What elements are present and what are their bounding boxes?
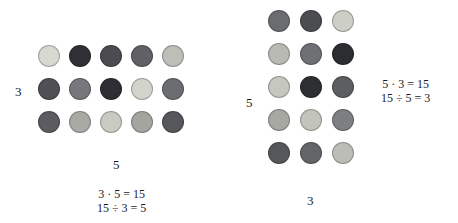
dot bbox=[131, 78, 153, 100]
dot bbox=[300, 76, 322, 98]
dot bbox=[100, 111, 122, 133]
dot bbox=[38, 78, 60, 100]
left-array-row-label: 3 bbox=[15, 85, 22, 98]
right-dot-array bbox=[268, 10, 354, 164]
division-equation: 15 ÷ 3 = 5 bbox=[97, 201, 146, 215]
dot bbox=[300, 43, 322, 65]
dot bbox=[162, 45, 184, 67]
dot bbox=[300, 142, 322, 164]
dot bbox=[38, 45, 60, 67]
multiplication-equation: 5 · 3 = 15 bbox=[381, 77, 430, 91]
right-array-row-label: 5 bbox=[246, 96, 253, 109]
dot bbox=[300, 10, 322, 32]
dot bbox=[131, 111, 153, 133]
dot bbox=[69, 78, 91, 100]
dot bbox=[162, 78, 184, 100]
dot bbox=[332, 43, 354, 65]
left-array-column-label: 5 bbox=[113, 158, 120, 171]
dot bbox=[268, 142, 290, 164]
division-equation: 15 ÷ 5 = 3 bbox=[381, 91, 430, 105]
dot bbox=[69, 45, 91, 67]
dot bbox=[268, 10, 290, 32]
dot bbox=[332, 109, 354, 131]
dot bbox=[38, 111, 60, 133]
dot bbox=[332, 10, 354, 32]
diagram-canvas: 3 5 3 · 5 = 15 15 ÷ 3 = 5 5 3 bbox=[0, 0, 458, 223]
dot bbox=[268, 109, 290, 131]
left-dot-array bbox=[38, 45, 184, 133]
dot bbox=[69, 111, 91, 133]
dot bbox=[268, 76, 290, 98]
dot bbox=[100, 45, 122, 67]
dot bbox=[100, 78, 122, 100]
dot bbox=[131, 45, 153, 67]
right-array-equations: 5 · 3 = 15 15 ÷ 5 = 3 bbox=[381, 77, 430, 105]
dot bbox=[332, 76, 354, 98]
dot bbox=[300, 109, 322, 131]
dot bbox=[332, 142, 354, 164]
right-array-column-label: 3 bbox=[307, 194, 314, 207]
dot bbox=[268, 43, 290, 65]
dot bbox=[162, 111, 184, 133]
left-array-equations: 3 · 5 = 15 15 ÷ 3 = 5 bbox=[97, 187, 146, 215]
multiplication-equation: 3 · 5 = 15 bbox=[97, 187, 146, 201]
